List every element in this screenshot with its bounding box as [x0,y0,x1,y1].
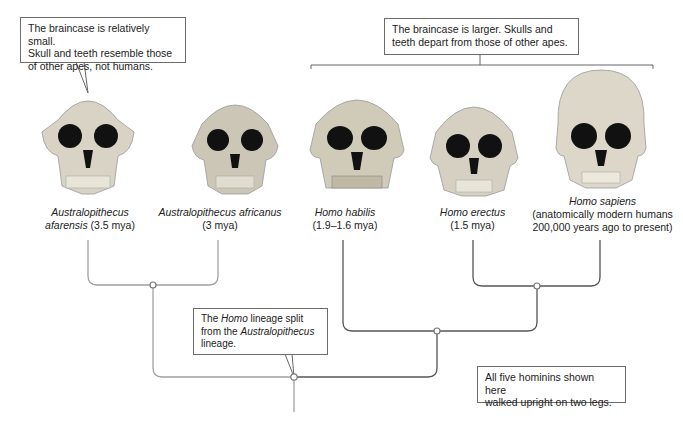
label-erectus: Homo erectus (1.5 mya) [425,206,520,232]
callout-line: The braincase is relatively small. [28,22,178,47]
callout-line: of other apes, not humans. [28,60,178,73]
callout-line: walked upright on two legs. [485,396,618,409]
skull-africanus-icon [178,94,292,200]
skull-erectus-icon [424,92,524,200]
callout-line: All five hominins shown here [485,371,618,396]
node-homo [434,328,440,334]
node-root [291,374,297,380]
label-afarensis: Australopithecus afarensis (3.5 mya) [40,206,140,232]
skull-afarensis-icon [30,90,146,202]
skull-sapiens-icon [548,68,654,194]
callout-line: Skull and teeth resemble those [28,47,178,60]
callout-line: The Homo lineage split [201,313,320,326]
callout-australopithecus-braincase: The braincase is relatively small. Skull… [20,17,186,63]
callout-line: teeth depart from those of other apes. [392,36,571,49]
node-erectus-sapiens [534,283,540,289]
skull-habilis-icon [296,88,418,200]
callout-homo-braincase: The braincase is larger. Skulls and teet… [384,18,579,55]
callout-line: The braincase is larger. Skulls and [392,23,571,36]
label-africanus: Australopithecus africanus (3 mya) [150,206,290,232]
callout-line: from the Australopithecus [201,326,320,339]
callout-bipedal: All five hominins shown here walked upri… [477,366,626,403]
callout-line: lineage. [201,338,320,351]
callout-lineage-split: The Homo lineage split from the Australo… [193,308,328,355]
node-australopithecus [150,282,156,288]
label-sapiens: Homo sapiens (anatomically modern humans… [525,195,680,234]
label-habilis: Homo habilis (1.9–1.6 mya) [300,206,390,232]
